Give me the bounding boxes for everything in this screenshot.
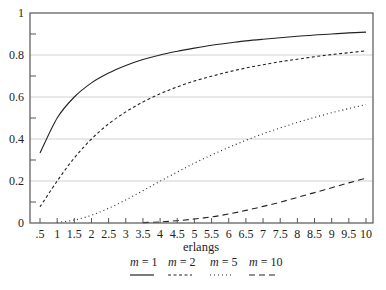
series-line-2 — [40, 51, 366, 207]
x-tick-label: 9.5 — [341, 227, 356, 241]
x-tick-label: 9 — [329, 227, 335, 241]
y-tick-label: 0.8 — [9, 48, 24, 62]
x-tick-label: 10 — [360, 227, 372, 241]
y-axis: 00.20.40.60.81 — [9, 6, 36, 230]
y-tick-label: 0 — [18, 216, 24, 230]
x-tick-label: 3.5 — [135, 227, 150, 241]
x-tick-label: 7.5 — [273, 227, 288, 241]
x-tick-label: 6 — [226, 227, 232, 241]
series-line-10 — [143, 178, 366, 223]
plot-frame — [30, 13, 373, 223]
legend-label: m = 1 — [130, 255, 157, 269]
plot-series — [40, 32, 366, 223]
legend-item-m10: m = 10 — [249, 255, 282, 275]
series-line-5 — [57, 105, 366, 223]
x-axis-title: erlangs — [183, 240, 219, 254]
x-tick-label: .5 — [36, 227, 45, 241]
legend: m = 1m = 2m = 5m = 10 — [130, 255, 282, 275]
y-tick-label: 1 — [18, 6, 24, 20]
x-tick-label: 8 — [294, 227, 300, 241]
x-tick-label: 5 — [191, 227, 197, 241]
x-tick-label: 7 — [260, 227, 266, 241]
x-tick-label: 1.5 — [67, 227, 82, 241]
legend-item-m2: m = 2 — [168, 255, 195, 275]
erlang-chart: 00.20.40.60.81 .511.522.533.544.555.566.… — [0, 0, 386, 290]
x-tick-label: 6.5 — [238, 227, 253, 241]
legend-label: m = 5 — [210, 255, 237, 269]
legend-item-m1: m = 1 — [130, 255, 157, 275]
series-line-1 — [40, 32, 366, 153]
x-tick-label: 4 — [157, 227, 163, 241]
legend-label: m = 2 — [168, 255, 195, 269]
x-tick-label: 2 — [88, 227, 94, 241]
x-tick-label: 8.5 — [307, 227, 322, 241]
x-tick-label: 3 — [123, 227, 129, 241]
x-tick-label: 5.5 — [204, 227, 219, 241]
y-tick-label: 0.2 — [9, 174, 24, 188]
x-tick-label: 4.5 — [170, 227, 185, 241]
gridlines — [30, 55, 373, 181]
y-tick-label: 0.6 — [9, 90, 24, 104]
x-axis: .511.522.533.544.555.566.577.588.599.510 — [36, 218, 373, 241]
x-tick-label: 1 — [54, 227, 60, 241]
legend-item-m5: m = 5 — [210, 255, 237, 275]
x-tick-label: 2.5 — [101, 227, 116, 241]
y-tick-label: 0.4 — [9, 132, 24, 146]
legend-label: m = 10 — [249, 255, 282, 269]
